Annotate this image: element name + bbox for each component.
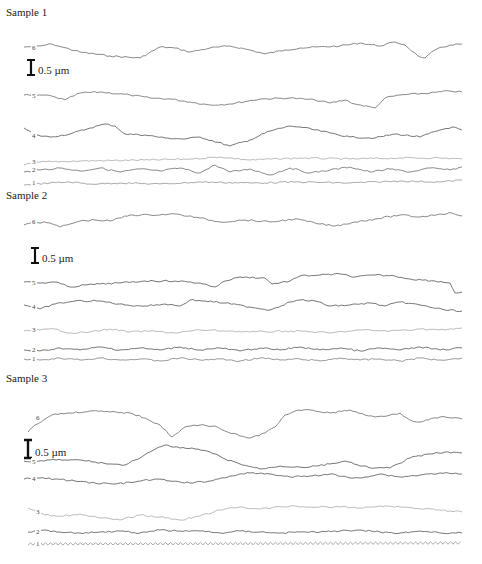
profile-trace-1 <box>24 358 462 362</box>
profile-trace-5 <box>24 91 462 108</box>
trace-label: 5 <box>32 279 36 287</box>
trace-label: 2 <box>36 528 40 536</box>
trace-label: 3 <box>32 326 36 334</box>
profile-trace-3 <box>24 328 462 333</box>
profile-trace-1 <box>28 542 461 545</box>
profile-trace-3 <box>28 506 462 520</box>
trace-label: 1 <box>32 179 36 187</box>
trace-label: 5 <box>32 92 36 100</box>
trace-label: 6 <box>36 414 40 422</box>
profile-trace-6 <box>24 42 462 58</box>
trace-label: 3 <box>36 508 40 516</box>
profile-trace-2 <box>24 347 462 351</box>
trace-label: 2 <box>32 166 36 174</box>
profile-trace-1 <box>24 180 462 185</box>
trace-label: 6 <box>32 218 36 226</box>
profile-trace-2 <box>24 165 462 175</box>
profile-trace-4 <box>24 473 462 484</box>
trace-label: 6 <box>32 44 36 52</box>
profile-trace-3 <box>24 157 462 165</box>
profile-traces: 654321654321654321 <box>0 0 482 564</box>
profile-trace-5 <box>24 273 462 293</box>
trace-label: 1 <box>36 540 40 548</box>
trace-label: 4 <box>32 132 36 140</box>
profile-trace-4 <box>24 124 462 146</box>
profile-trace-5 <box>24 445 462 469</box>
trace-label: 2 <box>32 346 36 354</box>
profile-trace-2 <box>28 530 462 534</box>
trace-label: 3 <box>32 158 36 166</box>
profile-trace-6 <box>28 410 462 439</box>
trace-label: 4 <box>32 475 36 483</box>
trace-label: 4 <box>32 303 36 311</box>
trace-label: 5 <box>32 458 36 466</box>
profile-trace-6 <box>24 213 462 227</box>
profile-trace-4 <box>24 300 462 312</box>
trace-label: 1 <box>32 355 36 363</box>
